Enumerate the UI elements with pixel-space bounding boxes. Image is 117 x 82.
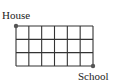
street-grid: [0, 0, 117, 82]
grid-lines: [16, 26, 93, 66]
house-point-icon: [14, 24, 18, 28]
school-point-icon: [91, 64, 95, 68]
